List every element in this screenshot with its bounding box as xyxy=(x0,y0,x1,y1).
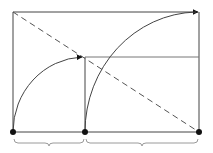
golden-ratio-diagram xyxy=(0,0,213,153)
minor-segment-brace xyxy=(14,139,84,146)
large-arc-arrow xyxy=(85,12,196,132)
point-b-dot xyxy=(82,129,88,135)
small-arc-arrow xyxy=(13,57,82,132)
point-c-dot xyxy=(196,129,202,135)
major-segment-brace xyxy=(86,139,198,146)
point-a-dot xyxy=(10,129,16,135)
